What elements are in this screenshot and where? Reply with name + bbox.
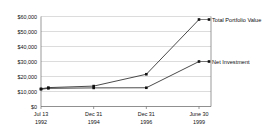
x-tick-label-line1: June 30 — [189, 111, 208, 117]
x-tick-label-line2: 1999 — [193, 119, 205, 125]
x-tick-label-line1: Dec 31 — [138, 111, 155, 117]
annotation-marker — [208, 60, 211, 63]
data-point-marker — [145, 73, 148, 76]
y-tick-label: $30,000 — [18, 59, 38, 65]
series-annotation-label: Net Investment — [212, 59, 250, 65]
chart-container: $60,000$50,000$40,000$30,000$20,000$10,0… — [0, 0, 270, 136]
data-point-marker — [47, 87, 50, 90]
x-tick-label-line2: 1994 — [88, 119, 100, 125]
x-tick-label-line2: 1996 — [140, 119, 152, 125]
data-point-marker — [145, 86, 148, 89]
annotation-marker — [208, 18, 211, 21]
data-point-marker — [40, 88, 43, 91]
y-tick-label: $10,000 — [18, 89, 38, 95]
y-tick-label: $40,000 — [18, 44, 38, 50]
series-annotation-label: Total Portfolio Value — [212, 17, 261, 23]
y-tick-label: $20,000 — [18, 74, 38, 80]
x-tick-label-line1: Jul 13 — [34, 111, 48, 117]
x-tick-label-line2: 1992 — [35, 119, 47, 125]
line-chart: $60,000$50,000$40,000$30,000$20,000$10,0… — [0, 0, 270, 136]
data-point-marker — [92, 87, 95, 90]
y-tick-label: $0 — [31, 104, 37, 110]
x-tick-label-line1: Dec 31 — [85, 111, 102, 117]
y-tick-label: $60,000 — [18, 14, 38, 20]
y-tick-label: $50,000 — [18, 29, 38, 35]
